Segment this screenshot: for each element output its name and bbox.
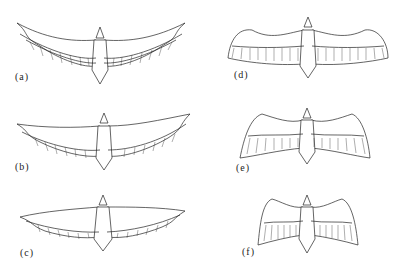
bird-drawing-a bbox=[0, 0, 200, 90]
bird-drawing-e bbox=[200, 90, 396, 175]
panel-label-d: (d) bbox=[234, 69, 249, 80]
bird-drawing-b bbox=[0, 90, 200, 175]
panel-a: (a) bbox=[0, 0, 200, 90]
panel-label-b: (b) bbox=[15, 161, 30, 172]
panel-label-e: (e) bbox=[236, 162, 250, 173]
panel-label-f: (f) bbox=[242, 246, 255, 257]
panel-d: (d) bbox=[200, 0, 396, 90]
panel-c: (c) bbox=[0, 175, 200, 261]
bird-drawing-d bbox=[200, 0, 396, 90]
panel-label-a: (a) bbox=[15, 71, 29, 82]
panel-b: (b) bbox=[0, 90, 200, 175]
panel-e: (e) bbox=[200, 90, 396, 175]
bird-drawing-f bbox=[200, 175, 396, 261]
panel-label-c: (c) bbox=[20, 247, 34, 258]
panel-f: (f) bbox=[200, 175, 396, 261]
